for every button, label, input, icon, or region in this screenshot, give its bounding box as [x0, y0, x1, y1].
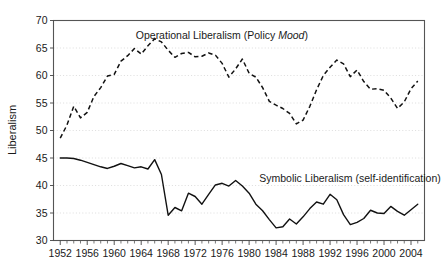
y-tick-label: 35 [36, 207, 48, 219]
x-axis-ticks [60, 241, 418, 246]
series-line [60, 39, 418, 139]
x-tick-label: 1964 [130, 247, 154, 259]
line-chart: 303540455055606570 195219561960196419681… [0, 0, 442, 276]
x-tick-label: 1992 [318, 247, 342, 259]
series-operational-liberalism [60, 39, 418, 139]
series-label: Symbolic Liberalism (self-identification… [259, 172, 440, 184]
x-tick-label: 1980 [237, 247, 261, 259]
y-axis-title: Liberalism [6, 105, 18, 155]
y-tick-label: 50 [36, 124, 48, 136]
y-tick-label: 70 [36, 14, 48, 26]
series-label-tail: ) [304, 29, 308, 41]
y-tick-label: 40 [36, 179, 48, 191]
x-tick-label: 1956 [76, 247, 100, 259]
series-line [60, 158, 418, 228]
x-axis-tick-labels: 1952195619601964196819721976198019841988… [49, 247, 423, 259]
series-label-italic: Mood [278, 29, 305, 41]
x-tick-label: 1996 [345, 247, 369, 259]
series-annotations: Operational Liberalism (Policy Mood)Symb… [136, 29, 441, 183]
x-tick-label: 2000 [372, 247, 396, 259]
series-symbolic-liberalism [60, 158, 418, 228]
series-label-text: Operational Liberalism (Policy [136, 29, 278, 41]
y-tick-label: 45 [36, 152, 48, 164]
y-tick-label: 60 [36, 69, 48, 81]
x-tick-label: 2004 [399, 247, 423, 259]
x-tick-label: 1976 [210, 247, 234, 259]
y-tick-label: 65 [36, 42, 48, 54]
y-tick-label: 30 [36, 234, 48, 246]
gridlines-group [54, 48, 425, 213]
x-tick-label: 1988 [291, 247, 315, 259]
x-tick-label: 1952 [49, 247, 73, 259]
x-tick-label: 1960 [103, 247, 127, 259]
series-label: Operational Liberalism (Policy Mood) [136, 29, 308, 41]
series-label-text: Symbolic Liberalism (self-identification… [259, 172, 440, 184]
chart-container: 303540455055606570 195219561960196419681… [0, 0, 442, 276]
plot-frame [54, 21, 425, 241]
plot-border [54, 21, 425, 241]
y-axis-tick-labels: 303540455055606570 [36, 14, 48, 246]
x-tick-label: 1968 [156, 247, 180, 259]
y-tick-label: 55 [36, 97, 48, 109]
x-tick-label: 1984 [264, 247, 288, 259]
x-tick-label: 1972 [183, 247, 207, 259]
